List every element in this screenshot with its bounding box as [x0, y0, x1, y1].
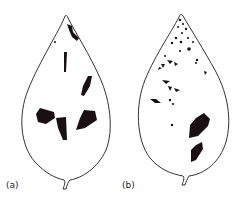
leaf-a-outline — [22, 15, 110, 189]
leaf-diagram — [0, 0, 239, 205]
leaf-b — [138, 14, 228, 185]
leaf-a — [22, 15, 110, 189]
panel-label-a: (a) — [6, 180, 19, 190]
panel-label-b: (b) — [122, 180, 135, 190]
